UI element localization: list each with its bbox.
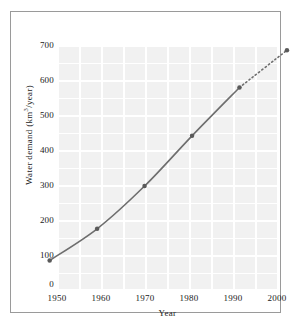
y-axis-title: Water demand (km3/year) bbox=[24, 55, 34, 215]
xtick-label: 2000 bbox=[257, 293, 291, 304]
gridline-horizontal bbox=[57, 63, 278, 65]
figure-frame: 700 600 500 400 300 200 100 0 1950 1960 bbox=[10, 11, 281, 313]
data-point-2000 bbox=[285, 48, 290, 52]
plot-area bbox=[57, 45, 278, 290]
gridline-horizontal bbox=[57, 98, 278, 100]
xtick-1970: 1970 bbox=[125, 293, 165, 304]
gridline-horizontal bbox=[57, 80, 278, 82]
gridline-horizontal bbox=[57, 185, 278, 187]
xtick-label: 1990 bbox=[213, 293, 253, 304]
ytick-600: 600 bbox=[33, 76, 54, 85]
xtick-label: 1950 bbox=[37, 293, 77, 304]
xtick-1980: 1980 bbox=[169, 293, 209, 304]
xtick-2000: 2000 bbox=[257, 293, 291, 304]
ytick-label: 200 bbox=[40, 216, 54, 225]
gridline-horizontal bbox=[57, 150, 278, 152]
x-axis-title: Year bbox=[57, 308, 278, 318]
ytick-400: 400 bbox=[33, 146, 54, 155]
gridline-horizontal bbox=[57, 220, 278, 222]
xtick-1950: 1950 bbox=[37, 293, 77, 304]
xtick-label: 1970 bbox=[125, 293, 165, 304]
gridline-horizontal bbox=[57, 273, 278, 275]
ytick-700: 700 bbox=[33, 41, 54, 50]
y-axis-title-suffix: /year) bbox=[24, 85, 34, 108]
gridline-horizontal bbox=[57, 115, 278, 117]
gridline-horizontal bbox=[57, 203, 278, 205]
figure-root: 700 600 500 400 300 200 100 0 1950 1960 bbox=[0, 0, 291, 321]
ytick-label: 600 bbox=[40, 76, 54, 85]
gridline-horizontal bbox=[57, 133, 278, 135]
ytick-label: 500 bbox=[40, 111, 54, 120]
xtick-1960: 1960 bbox=[81, 293, 121, 304]
ytick-0: 0 bbox=[33, 280, 54, 289]
page-bleed-text bbox=[6, 0, 285, 7]
gridline-horizontal bbox=[57, 255, 278, 257]
ytick-label: 0 bbox=[49, 280, 54, 289]
gridline-horizontal bbox=[57, 289, 278, 291]
ytick-label: 100 bbox=[40, 251, 54, 260]
y-axis-title-exponent: 3 bbox=[22, 108, 29, 112]
ytick-200: 200 bbox=[33, 216, 54, 225]
xtick-label: 1960 bbox=[81, 293, 121, 304]
gridline-horizontal bbox=[57, 168, 278, 170]
gridline-horizontal bbox=[57, 238, 278, 240]
gridline-horizontal bbox=[57, 45, 278, 47]
ytick-label: 400 bbox=[40, 146, 54, 155]
ytick-300: 300 bbox=[33, 181, 54, 190]
y-axis-title-prefix: Water demand (km bbox=[24, 111, 34, 185]
ytick-100: 100 bbox=[33, 251, 54, 260]
ytick-label: 700 bbox=[40, 41, 54, 50]
ytick-label: 300 bbox=[40, 181, 54, 190]
xtick-1990: 1990 bbox=[213, 293, 253, 304]
xtick-label: 1980 bbox=[169, 293, 209, 304]
ytick-500: 500 bbox=[33, 111, 54, 120]
